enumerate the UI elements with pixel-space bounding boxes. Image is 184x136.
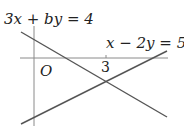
equation-2-text: x − 2y = 5 [106,34,184,52]
equation-1-text: 3x + by = 4 [4,10,94,28]
tick-label-3: 3 [101,60,110,74]
equation-label-2: x − 2y = 5 [106,36,184,51]
equation-label-1: 3x + by = 4 [4,12,94,27]
origin-label: O [40,64,52,79]
